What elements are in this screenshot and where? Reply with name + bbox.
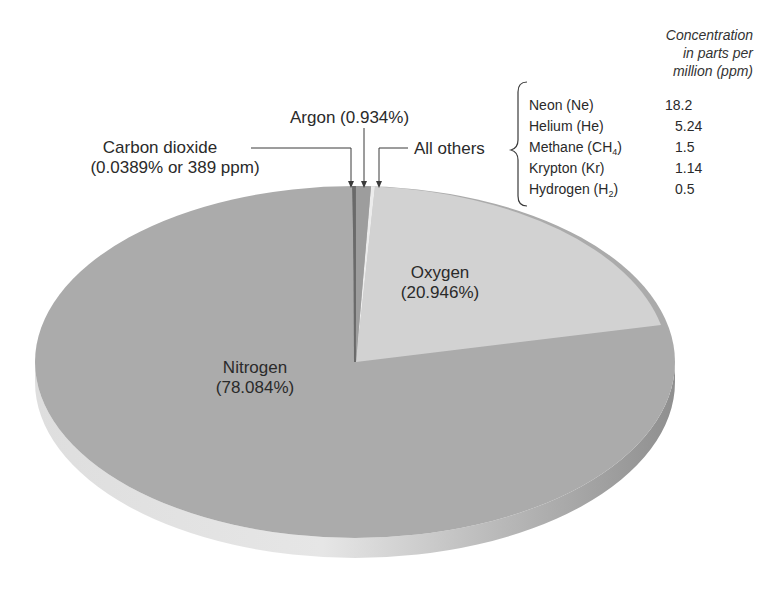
gas-ppm: 1.14 (675, 159, 702, 177)
gas-name: Helium (He) (529, 117, 604, 135)
brace-icon (511, 82, 527, 206)
concentration-title-line3: million (ppm) (600, 62, 753, 80)
gas-name: Neon (Ne) (529, 96, 594, 114)
co2-name: Carbon dioxide (66, 138, 284, 158)
all-others-leader-line (379, 148, 408, 182)
nitrogen-name: Nitrogen (195, 358, 315, 378)
nitrogen-label: Nitrogen (78.084%) (195, 358, 315, 398)
oxygen-percent: (20.946%) (380, 283, 500, 303)
concentration-title-line2: in parts per (600, 44, 753, 62)
concentration-title-line1: Concentration (600, 26, 753, 44)
gas-name-text: Methane (CH (529, 139, 612, 155)
gas-name-close: ) (617, 139, 622, 155)
concentration-table: Neon (Ne) 18.2 Helium (He) 5.24 Methane … (529, 96, 749, 206)
gas-name: Methane (CH4) (529, 138, 622, 161)
co2-label: Carbon dioxide (0.0389% or 389 ppm) (66, 138, 284, 178)
gas-ppm: 0.5 (675, 180, 694, 198)
gas-name: Krypton (Kr) (529, 159, 604, 177)
gas-name-text: Hydrogen (H (529, 181, 608, 197)
gas-ppm: 5.24 (675, 117, 702, 135)
co2-edge-line (354, 186, 355, 362)
all-others-label: All others (414, 139, 485, 159)
nitrogen-percent: (78.084%) (195, 378, 315, 398)
oxygen-label: Oxygen (20.946%) (380, 263, 500, 303)
gas-name-close: ) (613, 181, 618, 197)
argon-label: Argon (0.934%) (290, 108, 409, 128)
gas-name: Hydrogen (H2) (529, 180, 618, 203)
gas-ppm: 18.2 (665, 96, 692, 114)
gas-ppm: 1.5 (675, 138, 694, 156)
concentration-title: Concentration in parts per million (ppm) (600, 26, 753, 80)
co2-percent: (0.0389% or 389 ppm) (66, 158, 284, 178)
oxygen-name: Oxygen (380, 263, 500, 283)
